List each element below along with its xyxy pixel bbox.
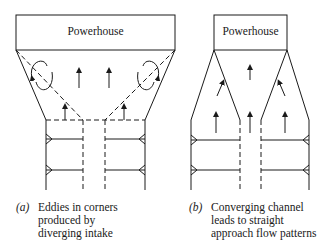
diagram-a: [16, 15, 175, 190]
caption-b-line-2: leads to straight: [189, 214, 316, 227]
caption-b: (b)Converging channel leads to straight …: [189, 201, 316, 240]
caption-b-line-3: approach flow patterns: [189, 227, 316, 240]
caption-b-line-1: Converging channel: [211, 201, 304, 213]
powerhouse-label-a: Powerhouse: [16, 25, 175, 37]
powerhouse-label-b: Powerhouse: [214, 25, 287, 37]
caption-a-tag: (a): [16, 201, 38, 214]
caption-b-tag: (b): [189, 201, 211, 214]
caption-a-line-2: produced by: [16, 214, 118, 227]
caption-a: (a)Eddies in corners produced by divergi…: [16, 201, 118, 240]
caption-a-line-3: diverging intake: [16, 227, 118, 240]
caption-a-line-1: Eddies in corners: [38, 201, 118, 213]
diagram-b: [191, 15, 309, 190]
